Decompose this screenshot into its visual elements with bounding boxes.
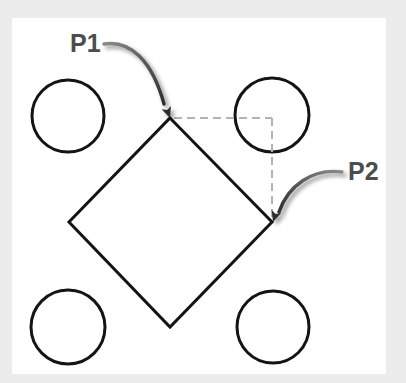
diagram-canvas: P1 P2	[0, 0, 406, 383]
p1-label: P1	[70, 29, 101, 57]
p2-label: P2	[348, 157, 379, 185]
drawing-panel	[12, 18, 386, 374]
diagram-svg: P1 P2	[0, 0, 406, 383]
